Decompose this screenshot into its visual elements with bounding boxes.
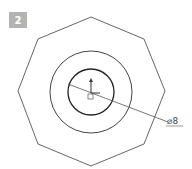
cad-sketch: ⌀8 [0, 0, 192, 169]
diameter-dimension-label: ⌀8 [167, 116, 178, 126]
diameter-dimension-line [68, 84, 168, 122]
